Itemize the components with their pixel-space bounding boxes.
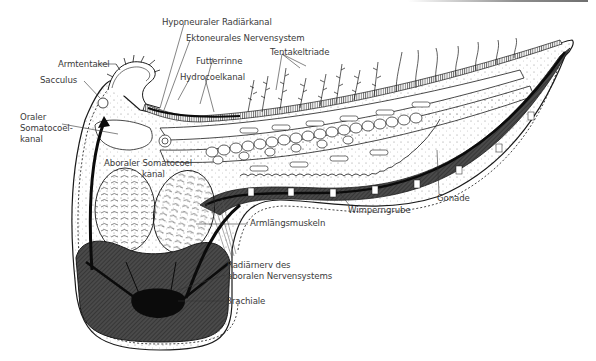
label-aboraler-somatocoelkanal-line2: kanal — [142, 169, 165, 180]
label-armlaengsmuskeln: Armlängsmuskeln — [250, 218, 325, 229]
label-hyponeuraler-radiaerkanal: Hyponeuraler Radiärkanal — [162, 17, 272, 28]
crinoid-arm-diagram: Hyponeuraler Radiärkanal Ektoneurales Ne… — [0, 0, 596, 361]
label-oraler-somatocoelkanal-line1: Oraler — [20, 112, 46, 123]
label-tentakeltriade: Tentakeltriade — [270, 47, 329, 58]
label-futterrinne: Futterrinne — [196, 56, 242, 67]
label-oraler-somatocoelkanal-line2: Somatocoel- — [20, 123, 73, 134]
label-armtentakel: Armtentakel — [58, 59, 110, 70]
label-brachiale: Brachiale — [226, 296, 265, 307]
label-hydrocoelkanal: Hydrocoelkanal — [180, 72, 245, 83]
label-gonade: Gonade — [437, 193, 470, 204]
label-ektoneurales-nervensystem: Ektoneurales Nervensystem — [186, 33, 305, 44]
sacculus — [98, 98, 108, 108]
label-radiaernerv-line2: aboralen Nervensystems — [227, 271, 332, 282]
label-radiaernerv-line1: Radiärnerv des — [227, 260, 290, 271]
label-aboraler-somatocoelkanal-line1: Aboraler Somatocoel — [104, 158, 192, 169]
label-wimperngrube: Wimperngrube — [348, 205, 411, 216]
label-oraler-somatocoelkanal-line3: kanal — [20, 134, 43, 145]
label-sacculus: Sacculus — [40, 75, 77, 86]
